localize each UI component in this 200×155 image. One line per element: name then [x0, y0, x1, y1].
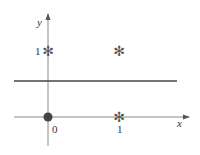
- point-0-0-filled-circle-icon: [44, 113, 53, 122]
- point-0-1-asterisk-icon: ✻: [42, 43, 54, 59]
- x-axis-label: x: [176, 117, 182, 129]
- point-1-1-asterisk-icon: ✻: [113, 43, 125, 59]
- y-axis-label: y: [36, 16, 42, 28]
- x-tick-label-0: 0: [52, 123, 58, 135]
- point-1-0-asterisk-icon: ✻: [113, 109, 125, 125]
- y-tick-label-1: 1: [35, 45, 41, 57]
- diagram-canvas: y x 1 0 1 ✻ ✻ ✻: [0, 0, 200, 155]
